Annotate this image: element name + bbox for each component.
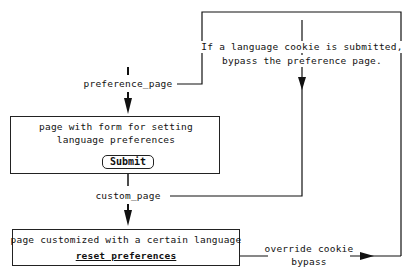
custom-page-label: custom_page	[95, 190, 160, 202]
submit-button[interactable]: Submit	[102, 155, 154, 169]
form-page-line1: page with form for setting	[39, 121, 193, 133]
override-label-line1: override cookie	[265, 243, 354, 255]
bypass-note-line2: bypass the preference page.	[220, 55, 384, 67]
custom-page-box: page customized with a certain language …	[12, 229, 240, 266]
form-page-box: page with form for setting language pref…	[10, 116, 220, 174]
preference-page-label: preference_page	[84, 78, 173, 90]
form-page-line2: language preferences	[57, 134, 175, 146]
bypass-note-line1: If a language cookie is submitted,	[199, 41, 404, 53]
override-label-line2: bypass	[291, 256, 327, 268]
custom-page-line1: page customized with a certain language	[11, 234, 242, 246]
reset-preferences-link[interactable]: reset preferences	[76, 250, 177, 262]
